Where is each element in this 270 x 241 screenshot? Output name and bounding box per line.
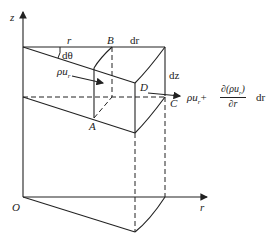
- hidden-diagonal-A: [94, 97, 112, 118]
- dz-label: dz: [169, 70, 179, 81]
- r-dimension-label: r: [67, 35, 71, 46]
- flux-out-fraction: ∂(ρur) ∂r: [220, 84, 246, 109]
- point-D-label: D: [140, 82, 148, 93]
- flux-out-prefix: ρur+: [187, 92, 207, 106]
- top-inner-arc: [94, 47, 112, 68]
- origin-label: O: [12, 202, 20, 213]
- lower-sloped-edge: [23, 97, 135, 133]
- point-B-label: B: [107, 35, 114, 46]
- dtheta-label: dθ: [62, 50, 73, 61]
- bottom-sloped-edge: [23, 197, 135, 232]
- flux-out-arrow: [148, 93, 180, 96]
- point-A-label: A: [89, 121, 96, 132]
- diagram-canvas: z r O r dθ dr dz B A D C ρur ρur+ ∂(ρur)…: [0, 0, 270, 241]
- flux-in-label: ρur: [57, 66, 71, 80]
- r-axis-label: r: [200, 202, 204, 213]
- bottom-outer-arc: [135, 197, 165, 232]
- dr-label: dr: [130, 35, 139, 46]
- point-C-label: C: [170, 98, 177, 109]
- z-axis-label: z: [10, 12, 14, 23]
- dtheta-arc: [58, 47, 60, 58]
- flux-out-suffix: dr: [256, 92, 265, 103]
- top-outer-arc: [135, 47, 165, 83]
- flux-in-arrow: [72, 76, 103, 83]
- lower-outer-arc: [135, 97, 165, 133]
